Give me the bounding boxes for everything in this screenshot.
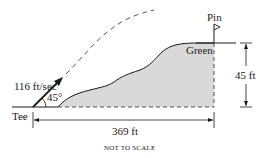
angle-label: 45°: [47, 91, 62, 103]
height-label: 45 ft: [235, 69, 255, 81]
distance-label: 369 ft: [112, 125, 138, 137]
distance-arrow-right-icon: [208, 118, 213, 122]
angle-arc: [42, 98, 46, 107]
ball-trajectory-dashed: [66, 10, 154, 74]
pin-label: Pin: [207, 11, 222, 23]
not-to-scale-note: NOT TO SCALE: [104, 144, 155, 152]
green-label: Green: [186, 44, 213, 56]
height-arrow-up-icon: [244, 44, 248, 49]
golf-shot-diagram: 116 ft/sec 45° Tee Pin Green 45 ft 369 f…: [0, 0, 264, 158]
pin-flag-icon: [214, 24, 220, 30]
distance-arrow-left-icon: [34, 118, 39, 122]
tee-label: Tee: [12, 110, 28, 122]
height-arrow-down-icon: [244, 101, 248, 106]
